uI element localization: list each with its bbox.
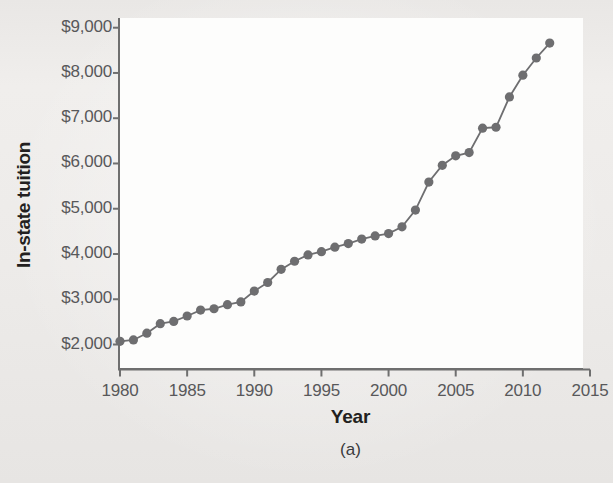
x-tick-label: 2015 bbox=[550, 381, 613, 401]
y-axis-title: In-state tuition bbox=[13, 105, 35, 305]
y-tick-label: $2,000 bbox=[12, 334, 112, 354]
figure-container: $2,000$3,000$4,000$5,000$6,000$7,000$8,0… bbox=[0, 0, 613, 483]
y-tick-label: $8,000 bbox=[12, 62, 112, 82]
figure-caption: (a) bbox=[118, 440, 583, 460]
y-tick-label: $9,000 bbox=[12, 17, 112, 37]
x-axis-title: Year bbox=[118, 406, 583, 428]
plot-area bbox=[118, 18, 583, 370]
